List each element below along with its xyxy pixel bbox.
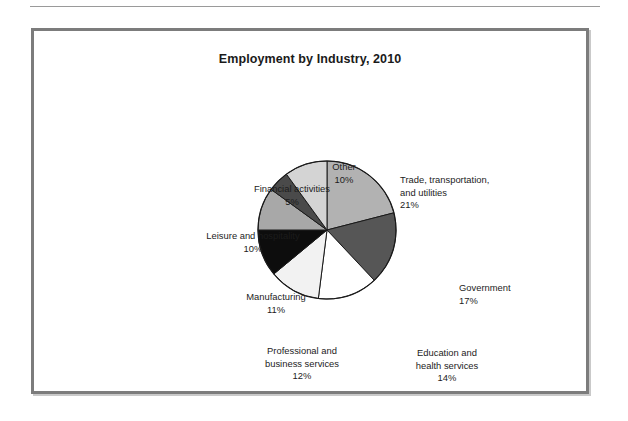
- pie-label-percent: 10%: [190, 243, 316, 256]
- pie-label-education-and-health-services: Education and health services 14%: [392, 347, 502, 385]
- top-divider-rule: [30, 6, 600, 7]
- chart-page: Employment by Industry, 2010: [0, 0, 628, 421]
- pie-label-leisure-and-hospitality: Leisure and hospitality 10%: [190, 230, 316, 255]
- pie-label-line1: Trade, transportation,: [400, 174, 489, 185]
- pie-label-line2: health services: [416, 360, 479, 371]
- pie-label-professional-and-business-services: Professional and business services 12%: [240, 345, 364, 383]
- pie-label-manufacturing: Manufacturing 11%: [230, 291, 322, 316]
- pie-label-line1: Government: [459, 282, 511, 293]
- pie-label-line2: and utilities: [400, 187, 447, 198]
- pie-label-line1: Manufacturing: [246, 291, 305, 302]
- pie-label-line1: Professional and: [267, 345, 337, 356]
- pie-label-line1: Education and: [417, 347, 477, 358]
- pie-label-percent: 10%: [316, 174, 372, 187]
- pie-label-trade-transportation-and-utilities: Trade, transportation, and utilities 21%: [400, 174, 489, 212]
- pie-label-percent: 14%: [392, 372, 502, 385]
- pie-label-financial-activities: Financial activities 5%: [231, 183, 353, 208]
- pie-label-percent: 12%: [240, 370, 364, 383]
- pie-label-government: Government 17%: [459, 282, 511, 307]
- pie-label-percent: 21%: [400, 199, 489, 212]
- pie-label-line1: Other: [332, 161, 355, 172]
- pie-label-percent: 17%: [459, 295, 511, 308]
- pie-label-line1: Leisure and hospitality: [206, 230, 299, 241]
- pie-label-percent: 11%: [230, 304, 322, 317]
- pie-label-other: Other 10%: [316, 161, 372, 186]
- pie-label-line2: business services: [265, 358, 339, 369]
- pie-label-percent: 5%: [231, 196, 353, 209]
- chart-title: Employment by Industry, 2010: [34, 52, 586, 66]
- chart-frame: Employment by Industry, 2010: [31, 28, 589, 394]
